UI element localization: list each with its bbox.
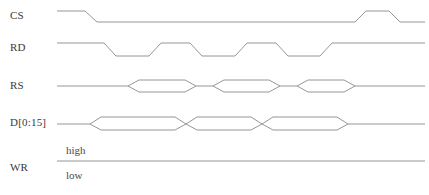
waveform-rs	[57, 80, 425, 92]
wave-segment-rs-1	[128, 80, 196, 86]
timing-diagram: CS RD RS D[0:15] WR high low	[0, 0, 429, 195]
wave-segment-d-0-15-6	[262, 124, 348, 130]
wave-segment-d-0-15-5	[262, 117, 348, 124]
wave-segment-d-0-15-4	[186, 124, 262, 130]
wave-segment-d-0-15-1	[90, 117, 186, 124]
waveform-canvas	[0, 0, 429, 195]
wave-segment-rd	[57, 43, 425, 56]
wave-segment-rs-5	[213, 86, 280, 92]
waveform-cs	[57, 11, 425, 22]
waveform-rd	[57, 43, 425, 56]
wave-segment-d-0-15-3	[186, 117, 262, 124]
wave-segment-rs-2	[128, 86, 196, 92]
wave-segment-rs-7	[297, 80, 355, 86]
wave-segment-cs	[57, 11, 425, 22]
wave-segment-rs-4	[213, 80, 280, 86]
wave-segment-d-0-15-2	[90, 124, 186, 130]
wave-segment-rs-8	[297, 86, 355, 92]
waveform-data-bus	[57, 117, 425, 130]
